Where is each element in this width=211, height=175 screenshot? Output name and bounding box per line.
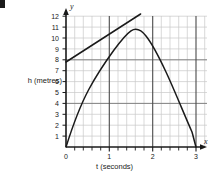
x-axis-name-label: x <box>203 137 208 146</box>
y-tick-label-12: 12 <box>51 13 59 20</box>
x-tick-label-0: 0 <box>64 153 68 160</box>
y-tick-label-3: 3 <box>55 111 59 118</box>
x-tick-label-3: 3 <box>194 153 198 160</box>
y-tick-label-10: 10 <box>51 35 59 42</box>
y-tick-label-8: 8 <box>55 56 59 63</box>
y-axis-caption-text: h (metres) <box>28 76 62 85</box>
y-tick-label-11: 11 <box>52 24 59 31</box>
x-tick-label-2: 2 <box>151 153 155 160</box>
y-axis-name-label: y <box>69 2 74 11</box>
y-axis-arrow <box>63 8 69 15</box>
y-tick-label-5: 5 <box>55 89 59 96</box>
y-tick-label-1: 1 <box>55 133 59 140</box>
x-tick-label-1: 1 <box>107 153 111 160</box>
y-tick-label-4: 4 <box>55 100 59 107</box>
y-tick-label-7: 7 <box>55 67 59 74</box>
graph-plot: 1 2 3 4 5 6 7 8 9 10 11 12 0 1 2 3 y x <box>0 0 211 175</box>
y-axis-caption: h (metres) <box>4 76 62 85</box>
figure-container: 1 2 3 4 5 6 7 8 9 10 11 12 0 1 2 3 y x h… <box>0 0 211 175</box>
x-axis-caption-text: t (seconds) <box>96 162 133 171</box>
y-tick-label-2: 2 <box>55 122 59 129</box>
height-curve <box>66 29 196 147</box>
y-tick-label-9: 9 <box>55 46 59 53</box>
x-axis-caption: t (seconds) <box>96 162 133 171</box>
